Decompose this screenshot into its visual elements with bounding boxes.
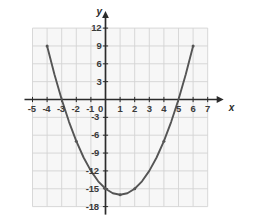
x-axis-tick-label-2: 2 xyxy=(132,104,137,114)
x-axis-tick-label-1: 1 xyxy=(118,104,123,114)
y-axis-tick-label-3: 3 xyxy=(97,77,102,87)
graph-figure: -5-4-3-2-11234567012963-3-6-9-12-15-18yx xyxy=(0,0,256,218)
x-axis-tick-label-neg4: -4 xyxy=(42,104,50,114)
x-axis-tick-label-neg3: -3 xyxy=(57,104,65,114)
x-axis-tick-label-neg2: -2 xyxy=(72,104,80,114)
y-axis-tick-label-12: 12 xyxy=(91,23,101,33)
y-axis-tick-label-neg15: -15 xyxy=(86,184,99,194)
y-axis-label: y xyxy=(97,7,103,17)
data-point xyxy=(119,193,122,196)
x-axis-tick-label-3: 3 xyxy=(147,104,152,114)
coordinate-plane xyxy=(0,0,256,218)
x-axis-tick-label-6: 6 xyxy=(191,104,196,114)
y-axis-tick-label-neg9: -9 xyxy=(91,148,99,158)
data-point xyxy=(46,44,49,47)
y-axis-tick-label-neg3: -3 xyxy=(91,112,99,122)
data-point xyxy=(162,140,165,143)
data-point xyxy=(75,140,78,143)
y-axis-tick-label-9: 9 xyxy=(97,41,102,51)
x-axis-tick-label-4: 4 xyxy=(161,104,166,114)
data-point xyxy=(104,187,107,190)
x-axis-label: x xyxy=(229,103,235,113)
data-point xyxy=(192,44,195,47)
x-axis-tick-label-7: 7 xyxy=(205,104,210,114)
y-axis-tick-label-neg18: -18 xyxy=(86,202,99,212)
y-axis-tick-label-6: 6 xyxy=(97,59,102,69)
y-axis-tick-label-neg12: -12 xyxy=(86,166,99,176)
data-point xyxy=(133,187,136,190)
x-axis-tick-label-5: 5 xyxy=(176,104,181,114)
y-axis-tick-label-neg6: -6 xyxy=(91,130,99,140)
x-axis-tick-label-neg5: -5 xyxy=(28,104,36,114)
